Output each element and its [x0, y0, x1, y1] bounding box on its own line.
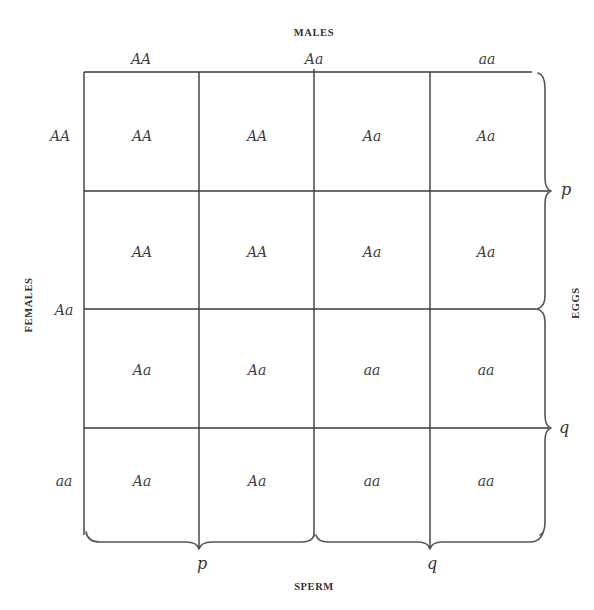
egg-frequency-q: q [559, 418, 569, 437]
bottom-brace-left [86, 532, 314, 549]
cell-r1-c3: Aa [475, 244, 495, 260]
cell-r0-c1: AA [245, 128, 267, 144]
cell-r0-c0: AA [130, 128, 152, 144]
eggs-title: EGGS [570, 287, 581, 319]
row-header-AA: AA [48, 128, 70, 144]
cell-r1-c0: AA [130, 244, 152, 260]
sperm-frequency-q: q [427, 554, 437, 573]
cell-r3-c1: Aa [246, 473, 266, 489]
cell-r2-c2: aa [364, 362, 381, 378]
row-header-Aa: Aa [53, 302, 73, 318]
cell-r0-c3: Aa [475, 128, 495, 144]
column-header-aa: aa [479, 51, 496, 67]
cell-r1-c2: Aa [361, 244, 381, 260]
cell-r3-c0: Aa [131, 473, 151, 489]
column-header-Aa: Aa [303, 51, 323, 67]
males-title: MALES [294, 27, 334, 38]
cell-r0-c2: Aa [361, 128, 381, 144]
row-header-aa: aa [56, 473, 73, 489]
cell-r1-c1: AA [245, 244, 267, 260]
sperm-title: SPERM [294, 581, 334, 592]
right-brace-lower [537, 309, 551, 535]
cell-r2-c3: aa [478, 362, 495, 378]
cell-r2-c0: Aa [131, 362, 151, 378]
females-title: FEMALES [23, 278, 34, 333]
column-header-AA: AA [129, 51, 151, 67]
egg-frequency-p: p [561, 180, 571, 199]
cell-r2-c1: Aa [246, 362, 266, 378]
cell-r3-c2: aa [364, 473, 381, 489]
cell-r3-c3: aa [478, 473, 495, 489]
punnett-square-diagram: MALES SPERM FEMALES EGGS AA Aa aa AA Aa … [0, 0, 594, 610]
sperm-frequency-p: p [197, 554, 207, 573]
